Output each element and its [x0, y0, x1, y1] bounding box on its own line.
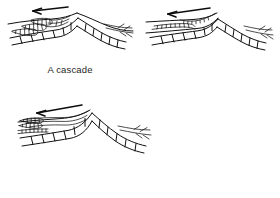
- flap-overturned-limb: [18, 110, 90, 134]
- transport-direction-arrow: [168, 8, 210, 17]
- transport-direction-arrow: [33, 7, 68, 14]
- panel-flap: C flap: [10, 96, 160, 192]
- slip-sheet-slab: [146, 13, 217, 29]
- flap-diagram: [10, 96, 160, 172]
- panel-cascade: A cascade: [0, 0, 140, 82]
- figure-root: A cascade: [0, 0, 280, 198]
- transport-direction-arrow: [37, 105, 82, 116]
- slip-sheet-diagram: [140, 0, 280, 62]
- caption-cascade: A cascade: [0, 64, 140, 75]
- cascade-diagram: [0, 0, 140, 62]
- panel-slip-sheet: B slip sheet: [140, 0, 280, 82]
